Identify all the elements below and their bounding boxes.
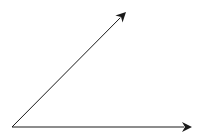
angle-diagram	[0, 0, 200, 139]
diagonal-ray-line	[12, 18, 120, 127]
rays-group	[12, 12, 192, 132]
